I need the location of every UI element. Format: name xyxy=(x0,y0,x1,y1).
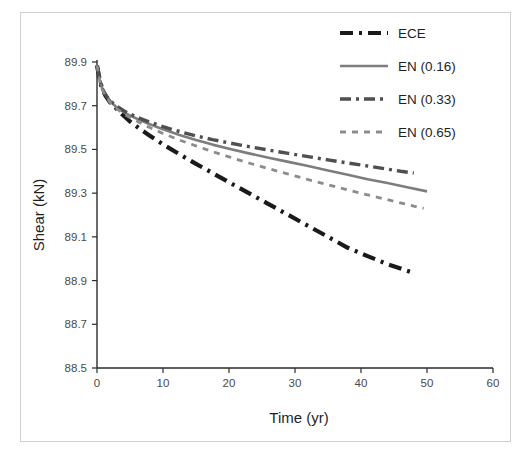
series-layer xyxy=(97,65,427,273)
y-tick-label: 89.1 xyxy=(65,231,87,243)
legend-label-1: ECE xyxy=(398,26,426,41)
series-line-3 xyxy=(97,65,414,173)
y-tick-label: 88.5 xyxy=(65,362,87,374)
x-tick-label: 30 xyxy=(289,377,302,389)
y-tick-label: 89.3 xyxy=(65,187,87,199)
x-axis-title: Time (yr) xyxy=(269,409,328,426)
shear-vs-time-chart: 010203040506088.588.788.989.189.389.589.… xyxy=(0,0,529,456)
x-tick-label: 10 xyxy=(157,377,170,389)
figure-root: 010203040506088.588.788.989.189.389.589.… xyxy=(0,0,529,456)
axis-title-layer: Time (yr) Shear (kN) xyxy=(30,179,329,426)
legend-label-3: EN (0.33) xyxy=(398,92,456,107)
y-tick-label: 89.9 xyxy=(65,56,87,68)
legend-label-4: EN (0.65) xyxy=(398,125,456,140)
y-axis-title: Shear (kN) xyxy=(30,179,47,252)
x-tick-label: 40 xyxy=(355,377,368,389)
legend-label-2: EN (0.16) xyxy=(398,59,456,74)
series-line-2 xyxy=(97,65,427,191)
x-tick-label: 0 xyxy=(94,377,100,389)
x-tick-label: 20 xyxy=(223,377,236,389)
x-tick-label: 60 xyxy=(487,377,500,389)
series-line-4 xyxy=(97,65,424,208)
x-tick-label: 50 xyxy=(421,377,434,389)
y-tick-label: 88.7 xyxy=(65,318,87,330)
y-tick-label: 89.7 xyxy=(65,100,87,112)
y-tick-label: 89.5 xyxy=(65,143,87,155)
series-line-1 xyxy=(97,65,414,273)
y-tick-label: 88.9 xyxy=(65,275,87,287)
legend-layer: ECEEN (0.16)EN (0.33)EN (0.65) xyxy=(340,26,456,140)
